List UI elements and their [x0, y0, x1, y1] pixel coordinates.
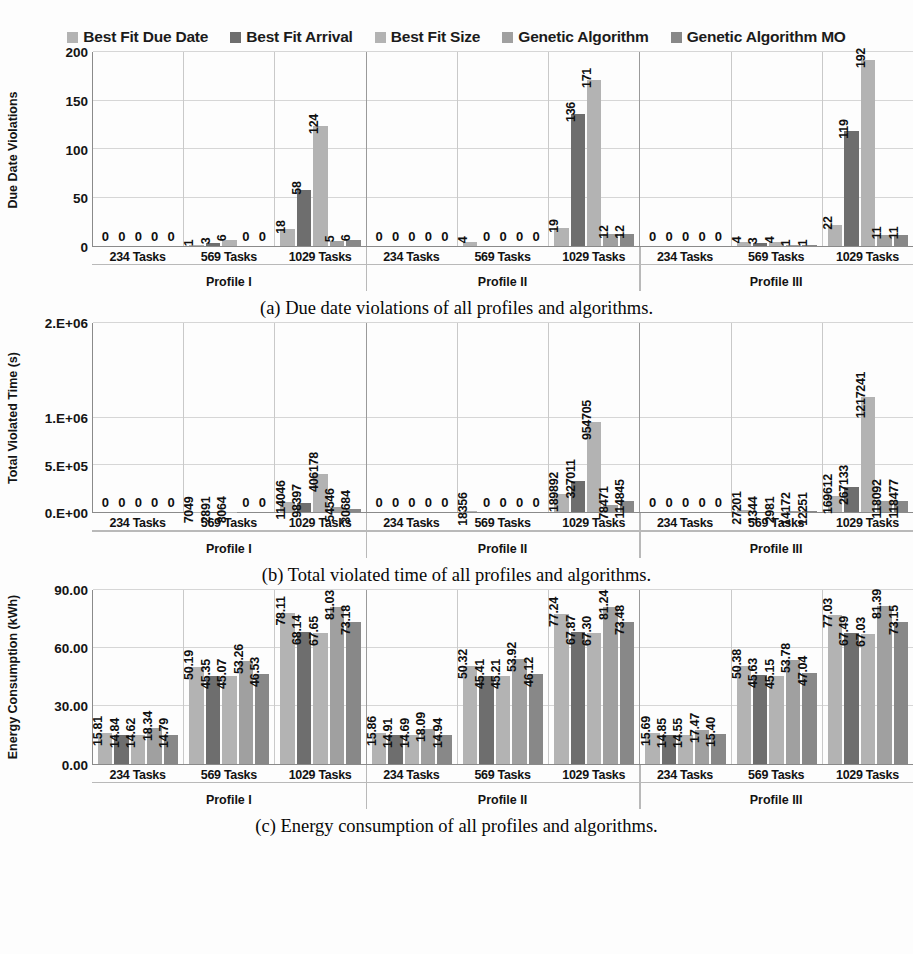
bar[interactable]: 118477: [894, 501, 908, 512]
bar-slot: 6: [222, 52, 236, 246]
bar[interactable]: 327011: [571, 481, 585, 512]
bar[interactable]: 1: [802, 245, 816, 246]
bar-value-label: 53.92: [505, 642, 519, 672]
bar[interactable]: 11: [894, 235, 908, 246]
x-axis-task-label: 569 Tasks: [457, 765, 548, 782]
task-group: 77.0367.4967.0381.3973.15: [822, 590, 913, 764]
bar-value-label: 14.55: [671, 719, 685, 749]
bar-value-label: 3: [746, 238, 760, 245]
bar-slot: 0: [437, 323, 451, 512]
bar[interactable]: 12: [620, 234, 634, 246]
bar-slot: 0: [388, 52, 402, 246]
bar-value-label: 68.14: [290, 615, 304, 645]
bar[interactable]: 46.12: [529, 674, 543, 763]
x-axis-task-label: 1029 Tasks: [822, 765, 913, 782]
bar-value-label: 14.62: [124, 718, 138, 748]
bar[interactable]: 58: [297, 190, 311, 246]
legend-item[interactable]: Genetic Algorithm: [502, 28, 648, 46]
bar[interactable]: 45.15: [769, 676, 783, 763]
bar[interactable]: 98397: [297, 503, 311, 512]
bar-value-label: 0: [441, 495, 448, 510]
bar[interactable]: 67.65: [313, 633, 327, 764]
bar[interactable]: 124: [313, 126, 327, 246]
legend-item[interactable]: Best Fit Size: [375, 28, 481, 46]
bar[interactable]: 67.03: [861, 634, 875, 764]
bar[interactable]: 3: [753, 243, 767, 246]
bar-value-label: 15.40: [704, 717, 718, 747]
legend-item[interactable]: Best Fit Arrival: [230, 28, 352, 46]
bar[interactable]: 136: [571, 114, 585, 246]
bar[interactable]: 68.14: [297, 632, 311, 764]
bar-value-label: 0: [408, 229, 415, 244]
bar[interactable]: 12251: [802, 511, 816, 512]
bar-value-label: 0: [408, 495, 415, 510]
bar[interactable]: 73.48: [620, 622, 634, 764]
bar-slot: 19: [554, 52, 568, 246]
bar[interactable]: 119: [844, 131, 858, 246]
bar[interactable]: 73.15: [894, 622, 908, 763]
legend-item[interactable]: Genetic Algorithm MO: [671, 28, 846, 46]
legend-swatch-icon: [375, 32, 386, 43]
bar[interactable]: 171: [587, 80, 601, 246]
bar[interactable]: 67.30: [587, 633, 601, 763]
bar-value-label: 0: [532, 229, 539, 244]
bar-value-label: 12251: [796, 493, 810, 526]
bar[interactable]: 67.49: [844, 633, 858, 763]
x-axis-task-label: 234 Tasks: [366, 765, 457, 782]
bar[interactable]: 14.79: [164, 735, 178, 764]
bar[interactable]: 45.35: [206, 676, 220, 764]
legend-item[interactable]: Best Fit Due Date: [67, 28, 208, 46]
bar-value-label: 0: [649, 229, 656, 244]
bar[interactable]: 4: [463, 242, 477, 246]
panel-a-ylabel-wrap: Due Date Violations: [0, 52, 26, 247]
bar-value-label: 81.24: [597, 590, 611, 620]
bar[interactable]: 6: [222, 240, 236, 246]
bar-value-label: 67.30: [580, 617, 594, 647]
bar[interactable]: 6: [346, 240, 360, 246]
bar-slot: 119: [844, 52, 858, 246]
bar-value-label: 12: [613, 226, 627, 239]
bar[interactable]: 67.87: [571, 632, 585, 763]
bar[interactable]: 267133: [844, 487, 858, 512]
bar[interactable]: 5: [330, 241, 344, 246]
bar-value-label: 1: [779, 240, 793, 247]
task-group: 50.1945.3545.0753.2646.53: [183, 590, 274, 764]
bar[interactable]: 114845: [620, 501, 634, 512]
bar[interactable]: 47.04: [802, 673, 816, 764]
bar[interactable]: 14.94: [437, 735, 451, 764]
bar-value-label: 0: [259, 495, 266, 510]
bar-slot: 192: [861, 52, 875, 246]
bar-value-label: 0: [259, 229, 266, 244]
bar[interactable]: 19: [554, 228, 568, 246]
bar[interactable]: 73.18: [346, 622, 360, 763]
bar[interactable]: 1: [189, 245, 203, 246]
bar-slot: 0: [421, 323, 435, 512]
x-axis-profile-label: Profile I: [92, 783, 366, 809]
bar[interactable]: 18: [280, 229, 294, 246]
bar[interactable]: 3: [206, 243, 220, 246]
bar[interactable]: 18356: [463, 511, 477, 513]
bar[interactable]: 45.41: [479, 676, 493, 764]
bar-value-label: 327011: [564, 460, 578, 499]
bar-value-label: 1344: [746, 497, 760, 524]
bar[interactable]: 30684: [346, 509, 360, 512]
x-axis-profile-section: 234 Tasks569 Tasks1029 TasksProfile I: [92, 765, 366, 809]
bar-slot: 124: [313, 52, 327, 246]
x-axis-task-label: 234 Tasks: [639, 513, 730, 530]
bar-slot: 0: [255, 323, 269, 512]
bar-value-label: 18.34: [141, 711, 155, 741]
bar-value-label: 78.11: [274, 596, 288, 625]
bar[interactable]: 15.40: [711, 734, 725, 764]
task-group: 00000: [93, 52, 183, 246]
bar-slot: 0: [239, 52, 253, 246]
bar-slot: 0: [645, 323, 659, 512]
bar[interactable]: 192: [861, 60, 875, 246]
y-axis-tick-label: 5.E+05: [45, 458, 88, 473]
bar[interactable]: 46.53: [255, 674, 269, 764]
bar[interactable]: 22: [828, 225, 842, 246]
bar-slot: 73.48: [620, 590, 634, 764]
bar[interactable]: 45.07: [222, 676, 236, 763]
bar-value-label: 171: [580, 68, 594, 88]
bar[interactable]: 45.21: [496, 676, 510, 763]
bar[interactable]: 8064: [222, 512, 236, 513]
